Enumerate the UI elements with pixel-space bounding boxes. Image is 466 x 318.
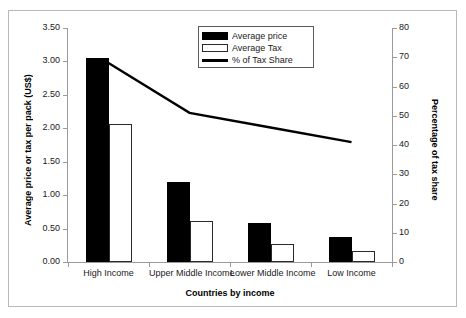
x-tick-label: High Income: [68, 268, 149, 278]
y-tick-left: [63, 128, 67, 129]
y-tick-left: [63, 262, 67, 263]
y-tick-right: [393, 145, 397, 146]
y-tick-label-right: 10: [399, 228, 409, 237]
x-tick: [68, 263, 69, 267]
legend-label-tax-share: % of Tax Share: [232, 55, 293, 65]
y-tick-label-left: 0.50: [16, 224, 60, 233]
y-axis-right-title: Percentage of tax share: [427, 80, 443, 220]
legend-swatch-tax-share: [202, 56, 228, 64]
y-tick-left: [63, 195, 67, 196]
legend-swatch-average-price: [202, 32, 228, 40]
x-tick: [149, 263, 150, 267]
y-tick-right: [393, 204, 397, 205]
x-tick-label: Low Income: [311, 268, 392, 278]
y-tick-right: [393, 57, 397, 58]
tax-share-line: [109, 63, 352, 142]
y-tick-right: [393, 116, 397, 117]
legend-label-average-tax: Average Tax: [232, 43, 282, 53]
y-tick-label-left: 0.00: [16, 257, 60, 266]
x-tick-label: Lower Middle Income: [230, 268, 311, 278]
y-tick-right: [393, 87, 397, 88]
y-tick-label-right: 80: [399, 23, 409, 32]
y-tick-label-left: 1.50: [16, 157, 60, 166]
y-tick-label-left: 2.50: [16, 90, 60, 99]
legend-item-average-tax: Average Tax: [202, 42, 310, 54]
y-tick-label-right: 0: [399, 257, 404, 266]
y-tick-left: [63, 95, 67, 96]
y-tick-right: [393, 233, 397, 234]
x-tick-label: Upper Middle Income: [149, 268, 230, 278]
y-tick-label-left: 1.00: [16, 190, 60, 199]
x-axis-title: Countries by income: [68, 288, 392, 298]
y-tick-label-left: 3.50: [16, 23, 60, 32]
x-tick: [311, 263, 312, 267]
y-tick-label-right: 70: [399, 52, 409, 61]
legend-swatch-average-tax: [202, 44, 228, 52]
legend-item-average-price: Average price: [202, 30, 310, 42]
legend-item-tax-share: % of Tax Share: [202, 54, 310, 66]
y-tick-left: [63, 61, 67, 62]
y-axis-left-title: Average price or tax per pack (US$): [20, 60, 36, 240]
y-tick-label-right: 60: [399, 82, 409, 91]
y-tick-label-right: 20: [399, 199, 409, 208]
y-tick-right: [393, 174, 397, 175]
y-tick-label-right: 50: [399, 111, 409, 120]
y-tick-label-right: 30: [399, 169, 409, 178]
y-tick-left: [63, 229, 67, 230]
y-tick-right: [393, 262, 397, 263]
y-tick-left: [63, 162, 67, 163]
x-tick: [392, 263, 393, 267]
chart-legend: Average price Average Tax % of Tax Share: [198, 26, 314, 68]
y-tick-label-left: 2.00: [16, 123, 60, 132]
y-tick-right: [393, 28, 397, 29]
y-tick-left: [63, 28, 67, 29]
legend-label-average-price: Average price: [232, 31, 287, 41]
y-tick-label-right: 40: [399, 140, 409, 149]
y-tick-label-left: 3.00: [16, 56, 60, 65]
x-tick: [230, 263, 231, 267]
chart-figure: Average price or tax per pack (US$) Perc…: [0, 0, 466, 318]
